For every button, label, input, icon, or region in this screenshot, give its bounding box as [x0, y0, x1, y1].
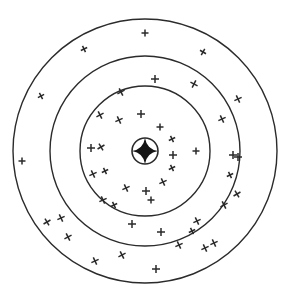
shot-marker-cross [225, 170, 234, 179]
shot-marker-plus [142, 187, 150, 195]
shot-marker-cross [90, 256, 101, 267]
shot-marker-plus [193, 148, 200, 155]
shot-marker-plus [148, 197, 155, 204]
shot-marker-cross [121, 183, 132, 194]
shot-marker-cross [232, 189, 243, 200]
bullseye-core [140, 146, 151, 157]
shot-marker-cross [95, 110, 106, 121]
shot-marker-plus [157, 228, 165, 236]
shot-marker-plus [128, 220, 136, 228]
shot-marker-cross [209, 238, 220, 249]
shot-marker-cross [63, 232, 74, 243]
shot-marker-plus [169, 151, 177, 159]
shot-marker-plus [87, 144, 95, 152]
shot-marker-cross [100, 166, 109, 175]
shot-marker-plus [157, 124, 164, 131]
shot-marker-cross [192, 216, 203, 227]
shot-marker-cross [167, 134, 176, 143]
shot-marker-cross [200, 243, 211, 254]
shot-marker-cross [114, 115, 125, 126]
shot-marker-plus [142, 30, 149, 37]
shot-marker-cross [117, 250, 128, 261]
shot-marker-cross [96, 142, 107, 153]
shot-marker-plus [152, 265, 160, 273]
target-figure [0, 0, 288, 303]
shot-marker-cross [189, 79, 200, 90]
shot-marker-plus [229, 151, 237, 159]
shot-marker-plus [151, 75, 159, 83]
shot-marker-cross [56, 213, 67, 224]
shot-marker-cross [233, 94, 244, 105]
shot-marker-cross [158, 177, 169, 188]
target-svg [0, 0, 288, 303]
shot-marker-cross [42, 217, 53, 228]
shot-marker-cross [79, 44, 88, 53]
shot-marker-cross [36, 91, 45, 100]
shot-marker-cross [198, 47, 208, 57]
shot-marker-cross [88, 169, 99, 180]
shot-marker-cross [167, 163, 176, 172]
shot-marker-plus [19, 158, 26, 165]
shot-marker-cross [217, 114, 228, 125]
shot-marker-plus [137, 110, 145, 118]
shot-marker-plus [234, 153, 242, 161]
